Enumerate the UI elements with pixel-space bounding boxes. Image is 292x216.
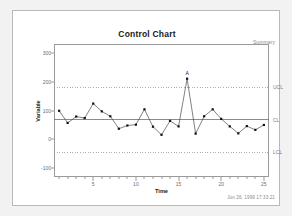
control-chart-plot <box>54 44 269 177</box>
point-annotation: A <box>185 70 188 76</box>
x-tick-mark <box>170 177 171 179</box>
limit-label-lcl: LCL <box>273 149 282 155</box>
x-tick-mark <box>110 177 111 179</box>
x-tick-mark <box>204 177 205 179</box>
x-tick-mark <box>59 177 60 179</box>
x-tick-mark <box>152 177 153 179</box>
limit-label-cl: CL <box>273 117 279 123</box>
y-tick-mark <box>51 110 54 111</box>
x-tick-mark <box>238 177 239 179</box>
x-tick-mark <box>127 177 128 179</box>
x-axis-title: Time <box>54 188 269 194</box>
x-tick-label: 20 <box>218 181 224 187</box>
plot-region: -1000100200300 510152025 UCLCLLCL A Time… <box>54 44 269 177</box>
timestamp-label: Jun 26, 1999 17:33:21 <box>227 195 275 200</box>
y-tick-label: 100 <box>43 108 51 114</box>
y-tick-mark <box>51 81 54 82</box>
chart-title: Control Chart <box>13 29 281 39</box>
x-tick-mark <box>118 177 119 179</box>
x-tick-label: 5 <box>92 181 95 187</box>
y-tick-mark <box>51 139 54 140</box>
y-tick-label: 200 <box>43 79 51 85</box>
x-tick-mark <box>161 177 162 179</box>
x-tick-mark <box>76 177 77 179</box>
x-tick-mark <box>212 177 213 179</box>
x-tick-mark <box>144 177 145 179</box>
x-tick-mark <box>67 177 68 179</box>
chart-screenshot: Control Chart Summary -1000100200300 510… <box>0 0 292 216</box>
x-tick-mark <box>84 177 85 179</box>
x-tick-mark <box>255 177 256 179</box>
x-tick-label: 10 <box>133 181 139 187</box>
limit-label-ucl: UCL <box>273 84 283 90</box>
y-axis-title: Variable <box>35 100 41 121</box>
y-tick-label: -100 <box>41 165 51 171</box>
y-tick-label: 0 <box>48 136 51 142</box>
chart-card: Control Chart Summary -1000100200300 510… <box>12 10 280 206</box>
y-tick-mark <box>51 168 54 169</box>
x-tick-mark <box>195 177 196 179</box>
x-tick-mark <box>101 177 102 179</box>
x-tick-label: 15 <box>176 181 182 187</box>
x-tick-label: 25 <box>261 181 267 187</box>
x-tick-mark <box>187 177 188 179</box>
x-tick-mark <box>229 177 230 179</box>
x-tick-mark <box>246 177 247 179</box>
y-tick-mark <box>51 52 54 53</box>
y-tick-label: 300 <box>43 50 51 56</box>
